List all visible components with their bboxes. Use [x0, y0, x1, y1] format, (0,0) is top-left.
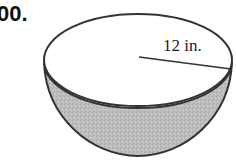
radius-label: 12 in.: [163, 36, 202, 56]
hemisphere-top-face: [44, 14, 232, 106]
hemisphere-figure: [0, 0, 236, 162]
